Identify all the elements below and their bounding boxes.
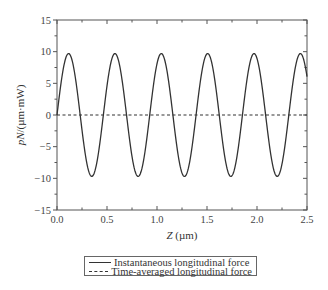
legend: Instantaneous longitudinal force Time-av…: [84, 256, 257, 276]
x-tick-label: 1.5: [200, 214, 213, 225]
y-tick-label: −10: [35, 173, 51, 184]
dashed-line-icon: [89, 271, 108, 272]
x-tick-label: 0.5: [100, 214, 113, 225]
y-tick-label: 10: [41, 46, 52, 57]
y-axis-label: pN/(µm·mW): [14, 84, 27, 146]
chart-plot: 0.00.51.01.52.02.5−15−10−5051015Z (µm)pN…: [0, 0, 328, 250]
y-tick-label: 0: [46, 110, 51, 121]
legend-item-time-averaged: Time-averaged longitudinal force: [89, 267, 252, 276]
x-tick-label: 2.0: [250, 214, 263, 225]
x-axis-label: Z (µm): [166, 229, 197, 242]
plot-frame: [57, 20, 307, 210]
x-tick-label: 2.5: [300, 214, 313, 225]
y-tick-label: 15: [41, 15, 52, 26]
y-tick-label: −15: [35, 205, 51, 216]
y-tick-label: 5: [46, 78, 51, 89]
x-tick-label: 0.0: [50, 214, 63, 225]
plot-border: [57, 20, 307, 210]
legend-label: Time-averaged longitudinal force: [111, 267, 252, 277]
series-layer: [57, 54, 307, 177]
x-tick-label: 1.0: [150, 214, 163, 225]
y-tick-label: −5: [40, 141, 51, 152]
axis-labels: 0.00.51.01.52.02.5−15−10−5051015Z (µm)pN…: [14, 15, 314, 243]
solid-line-icon: [89, 262, 111, 263]
series-instantaneous: [57, 54, 307, 177]
